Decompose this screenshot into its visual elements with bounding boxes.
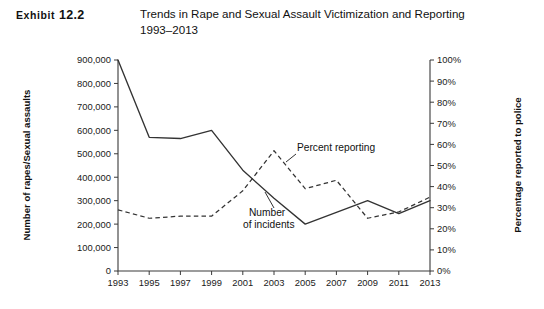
x-tick-label: 2007	[326, 277, 347, 288]
left-tick-label: 100,000	[77, 242, 111, 253]
x-tick-label: 2001	[232, 277, 253, 288]
left-tick-label: 800,000	[77, 78, 111, 89]
right-tick-label: 90%	[437, 76, 456, 87]
right-tick-label: 70%	[437, 118, 456, 129]
x-tick-label: 2009	[357, 277, 378, 288]
right-tick-label: 50%	[437, 160, 456, 171]
left-tick-label: 600,000	[77, 125, 111, 136]
left-tick-label: 500,000	[77, 148, 111, 159]
right-tick-label: 40%	[437, 181, 456, 192]
exhibit-figure: Exhibit 12.2 Trends in Rape and Sexual A…	[0, 0, 544, 309]
right-tick-label: 60%	[437, 139, 456, 150]
left-tick-label: 900,000	[77, 54, 111, 65]
x-tick-label: 2005	[295, 277, 316, 288]
x-tick-label: 2011	[389, 277, 409, 288]
x-tick-label: 2013	[420, 277, 441, 288]
right-axis-title: Percentage reported to police	[512, 97, 523, 232]
axis-frame	[118, 60, 430, 271]
x-axis-ticks: 1993199519971999200120032005200720092011…	[108, 271, 441, 288]
left-axis-title: Number of rapes/Sexual assaults	[21, 90, 32, 241]
right-tick-label: 100%	[437, 54, 461, 65]
exhibit-label: Exhibit 12.2	[16, 8, 85, 22]
right-tick-label: 20%	[437, 223, 456, 234]
left-axis-ticks: 0100,000200,000300,000400,000500,000600,…	[77, 54, 118, 276]
left-tick-label: 0	[106, 265, 111, 276]
left-tick-label: 400,000	[77, 172, 111, 183]
left-tick-label: 200,000	[77, 219, 111, 230]
page-title: Trends in Rape and Sexual Assault Victim…	[140, 6, 536, 37]
chart-title-line-1: Trends in Rape and Sexual Assault Victim…	[140, 7, 465, 20]
annotation-percent-reporting: Percent reporting	[297, 142, 375, 153]
x-tick-label: 1999	[201, 277, 222, 288]
left-tick-label: 300,000	[77, 195, 111, 206]
x-tick-label: 1995	[139, 277, 160, 288]
right-tick-label: 10%	[437, 244, 456, 255]
exhibit-prefix: Exhibit	[16, 9, 55, 21]
figure-header: Exhibit 12.2 Trends in Rape and Sexual A…	[0, 0, 544, 50]
x-tick-label: 1993	[108, 277, 129, 288]
exhibit-number: 12.2	[59, 8, 85, 22]
annotation-percent-reporting-leader	[286, 154, 296, 162]
right-tick-label: 0%	[437, 265, 451, 276]
x-tick-label: 1997	[170, 277, 191, 288]
series-number-of-incidents	[118, 60, 430, 224]
right-tick-label: 30%	[437, 202, 456, 213]
x-tick-label: 2003	[264, 277, 285, 288]
right-axis-ticks: 0%10%20%30%40%50%60%70%80%90%100%	[430, 54, 461, 276]
annotation-number-of-incidents-line-1: Number	[249, 207, 286, 218]
annotation-number-of-incidents-line-2: of incidents	[243, 219, 295, 230]
chart-title-line-2: 1993–2013	[140, 22, 536, 38]
chart-plot-area: 0100,000200,000300,000400,000500,000600,…	[0, 50, 544, 309]
line-chart-svg: 0100,000200,000300,000400,000500,000600,…	[0, 50, 544, 309]
right-tick-label: 80%	[437, 97, 456, 108]
left-tick-label: 700,000	[77, 101, 111, 112]
